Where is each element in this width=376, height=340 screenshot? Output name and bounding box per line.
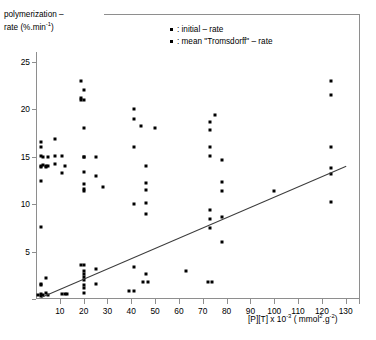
data-point <box>132 203 135 206</box>
data-point <box>82 89 85 92</box>
data-point <box>94 267 97 270</box>
data-point <box>54 138 57 141</box>
data-point <box>273 189 276 192</box>
data-point <box>142 280 145 283</box>
y-tick-label: 5 <box>25 247 30 257</box>
y-tick-mark <box>32 109 36 110</box>
x-tick-label: 10 <box>55 306 64 316</box>
x-tick-mark <box>298 299 299 304</box>
data-point <box>82 127 85 130</box>
data-point <box>144 273 147 276</box>
data-point <box>132 265 135 268</box>
x-tick-mark <box>250 299 251 304</box>
x-tick-label: 70 <box>198 306 207 316</box>
data-point <box>127 290 130 293</box>
data-point <box>94 174 97 177</box>
data-point <box>211 280 214 283</box>
data-point <box>82 98 85 101</box>
chart-legend: : initial – rate: mean "Tromsdorff" – ra… <box>170 23 272 47</box>
chart-root: polymerization – rate (%.min-1) [P][T] x… <box>0 0 376 340</box>
y-axis-line <box>36 52 37 299</box>
y-tick-label: 10 <box>21 199 30 209</box>
data-point <box>132 290 135 293</box>
x-tick-label: 120 <box>315 306 329 316</box>
x-tick-mark <box>107 299 108 304</box>
x-tick-mark <box>155 299 156 304</box>
x-tick-mark <box>131 299 132 304</box>
data-point <box>46 155 49 158</box>
data-point <box>213 113 216 116</box>
data-point <box>220 189 223 192</box>
x-tick-label: 90 <box>246 306 255 316</box>
data-point <box>80 79 83 82</box>
y-axis-title-line2: rate (%.min-1) <box>4 22 64 35</box>
data-point <box>61 154 64 157</box>
data-point <box>220 181 223 184</box>
data-point <box>101 185 104 188</box>
legend-marker-square-icon <box>170 40 173 43</box>
data-point <box>208 218 211 221</box>
data-point <box>54 163 57 166</box>
x-tick-mark <box>179 299 180 304</box>
data-point <box>132 108 135 111</box>
data-point <box>144 165 147 168</box>
legend-marker-square-icon <box>170 28 173 31</box>
data-point <box>144 188 147 191</box>
x-tick-mark <box>60 299 61 304</box>
legend-item: : mean "Tromsdorff" – rate <box>170 35 272 47</box>
data-point <box>39 180 42 183</box>
regression-trendline <box>41 166 346 298</box>
data-point <box>208 226 211 229</box>
data-point <box>46 165 49 168</box>
data-point <box>139 125 142 128</box>
data-point <box>39 146 42 149</box>
x-tick-label: 20 <box>79 306 88 316</box>
data-point <box>82 156 85 159</box>
y-tick-mark <box>32 299 36 300</box>
data-point <box>220 241 223 244</box>
data-point <box>42 155 45 158</box>
y-axis-title-line1: polymerization – <box>4 10 64 19</box>
data-point <box>82 292 85 295</box>
data-point <box>132 117 135 120</box>
data-point <box>54 154 57 157</box>
y-tick-label: 15 <box>21 152 30 162</box>
x-tick-label: 100 <box>267 306 281 316</box>
data-point <box>82 170 85 173</box>
data-point <box>63 165 66 168</box>
legend-item: : initial – rate <box>170 23 272 35</box>
x-tick-mark <box>203 299 204 304</box>
data-point <box>208 146 211 149</box>
frame-top-rule <box>104 14 360 15</box>
data-point <box>82 263 85 266</box>
data-point <box>94 282 97 285</box>
data-point <box>154 127 157 130</box>
y-tick-mark <box>32 157 36 158</box>
data-point <box>144 182 147 185</box>
data-point <box>330 166 333 169</box>
x-tick-label: 130 <box>339 306 353 316</box>
data-point <box>82 189 85 192</box>
data-point <box>208 208 211 211</box>
y-tick-mark <box>32 204 36 205</box>
y-tick-label: 20 <box>21 104 30 114</box>
y-tick-label: 25 <box>21 57 30 67</box>
data-point <box>44 277 47 280</box>
x-tick-label: 40 <box>127 306 136 316</box>
data-point <box>39 225 42 228</box>
x-tick-label: 80 <box>222 306 231 316</box>
data-point <box>39 283 42 286</box>
y-tick-mark <box>32 252 36 253</box>
plot-area: 510152025 102030405060708090100110120130 <box>36 52 360 299</box>
data-point <box>330 93 333 96</box>
x-tick-label: 60 <box>174 306 183 316</box>
data-point <box>82 183 85 186</box>
data-point <box>144 202 147 205</box>
data-point <box>330 146 333 149</box>
x-tick-mark <box>84 299 85 304</box>
x-tick-mark <box>346 299 347 304</box>
y-tick-mark <box>32 62 36 63</box>
data-point <box>39 141 42 144</box>
data-point <box>220 159 223 162</box>
data-point <box>208 128 211 131</box>
